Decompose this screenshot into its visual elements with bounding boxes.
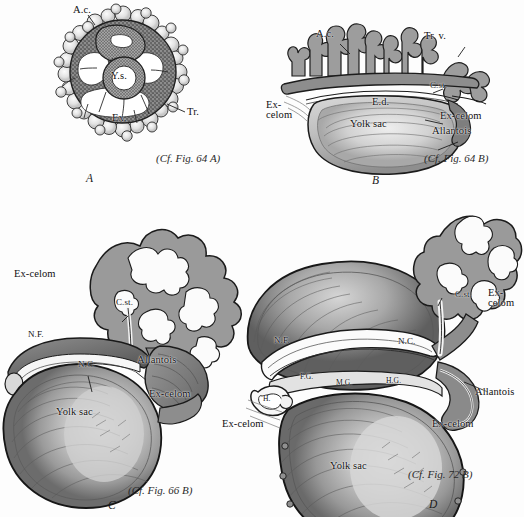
label-allantois: Allantois — [432, 125, 471, 136]
embryology-figure-plate: A.c. Y.s. Ex. Tr. (Cf. Fig. 64 A) A — [0, 0, 524, 517]
amniotic-cavity — [111, 35, 132, 48]
label-allantois: Allantois — [475, 386, 514, 397]
label-cst: C.st. — [455, 289, 472, 299]
panel-c-letter: C — [108, 499, 116, 511]
label-excelom-top-l2: celom — [488, 297, 514, 308]
label-yolk-sac: Yolk sac — [56, 406, 93, 417]
label-allantois: Allantois — [137, 354, 176, 365]
panel-a-drawing — [0, 0, 262, 200]
label-nc: N.C. — [78, 359, 95, 369]
panel-a-letter: A — [86, 172, 93, 184]
label-ac: A.c. — [316, 28, 334, 39]
label-excelom-left: Ex-celom — [222, 418, 264, 429]
panel-a-caption-text: (Cf. Fig. 64 A) — [156, 152, 220, 164]
yolk-sac-highlight — [64, 386, 144, 482]
label-fg: F.G. — [300, 372, 313, 381]
panel-b-caption-text: (Cf. Fig. 64 B) — [424, 152, 488, 164]
label-cst: C.st. — [116, 297, 133, 307]
label-ex: Ex. — [112, 112, 127, 123]
label-excelom-left: Ex- celom — [266, 100, 310, 121]
panel-b-letter: B — [372, 174, 379, 186]
panel-a: A.c. Y.s. Ex. Tr. (Cf. Fig. 64 A) A — [0, 0, 262, 200]
panel-c-caption: (Cf. Fig. 66 B) — [128, 484, 192, 496]
label-trv: Tr. v. — [424, 30, 446, 41]
panel-b: A.c. Tr. v. C.st. E.d. Yolk sac Ex- celo… — [262, 0, 524, 200]
label-yolk-sac: Yolk sac — [350, 118, 387, 129]
panel-b-caption: (Cf. Fig. 64 B) — [424, 152, 488, 164]
label-excelom-top: Ex- celom — [488, 288, 524, 309]
panel-a-caption: (Cf. Fig. 64 A) — [156, 152, 220, 164]
panel-d: Ex- celom C.st. N.F. N.C. F.G. M.G. H.G.… — [226, 196, 524, 517]
label-yolk-sac: Yolk sac — [330, 460, 367, 471]
label-excelom-right: Ex-celom — [149, 388, 191, 399]
label-cst: C.st. — [430, 80, 447, 90]
label-excelom-right: Ex-celom — [440, 110, 482, 121]
label-ac: A.c. — [73, 4, 91, 15]
panel-d-caption: (Cf. Fig. 72 B) — [408, 468, 472, 480]
label-hg: H.G. — [386, 376, 401, 385]
panel-d-drawing — [226, 196, 524, 517]
label-ed: E.d. — [372, 96, 389, 107]
panel-c-caption-text: (Cf. Fig. 66 B) — [128, 484, 192, 496]
label-nf: N.F. — [274, 335, 290, 345]
label-mg: M.G. — [336, 378, 352, 387]
label-nc: N.C. — [398, 336, 415, 346]
label-excelom-right: Ex-celom — [432, 418, 474, 429]
panel-d-caption-text: (Cf. Fig. 72 B) — [408, 468, 472, 480]
label-ys: Y.s. — [111, 70, 127, 81]
label-nf: N.F. — [28, 329, 44, 339]
label-tr: Tr. — [187, 106, 199, 117]
panel-d-letter: D — [429, 498, 437, 510]
label-excelom-left-l2: celom — [266, 109, 292, 120]
label-heart: H. — [263, 394, 271, 403]
label-excelom-topleft: Ex-celom — [14, 268, 56, 279]
